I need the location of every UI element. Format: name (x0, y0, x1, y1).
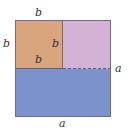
label-top-b: b (35, 7, 42, 18)
label-left-b: b (3, 38, 10, 49)
label-inner-right-b: b (52, 38, 59, 49)
outer-square-a (15, 20, 111, 117)
label-inner-bottom-b: b (35, 54, 42, 65)
label-bottom-a: a (59, 118, 66, 129)
label-right-a: a (115, 63, 122, 74)
